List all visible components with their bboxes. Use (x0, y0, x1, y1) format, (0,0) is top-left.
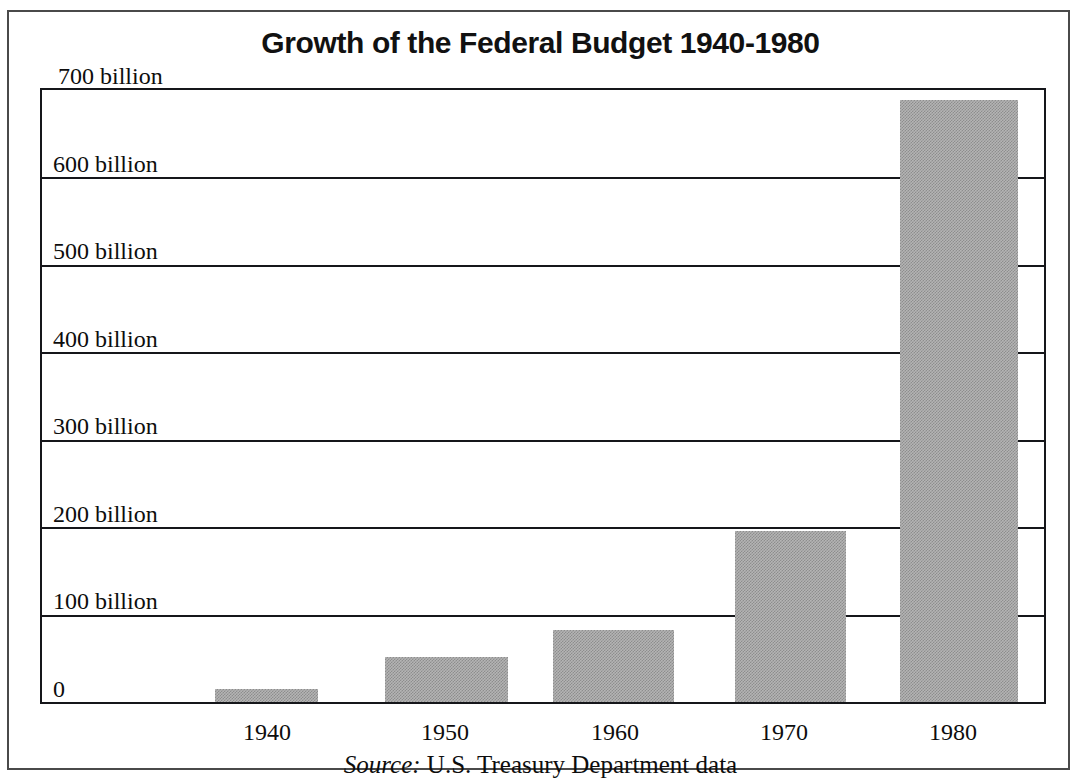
plot-inner: 600 billion 500 billion 400 billion 300 … (42, 90, 1044, 702)
plot-area: 600 billion 500 billion 400 billion 300 … (40, 88, 1046, 704)
gridline-600 (42, 177, 1044, 179)
gridline-500 (42, 265, 1044, 267)
chart-title: Growth of the Federal Budget 1940-1980 (9, 26, 1072, 60)
x-axis-tick-label-1980: 1980 (929, 720, 977, 744)
bar-1940[interactable] (215, 689, 318, 702)
gridline-300 (42, 440, 1044, 442)
y-axis-tick-label-0: 0 (53, 677, 65, 701)
y-axis-tick-label-200: 200 billion (53, 502, 158, 526)
x-axis-tick-label-1950: 1950 (421, 720, 469, 744)
chart-figure: Growth of the Federal Budget 1940-1980 7… (7, 10, 1070, 770)
y-axis-tick-label-700: 700 billion (58, 64, 163, 88)
y-axis-tick-label-500: 500 billion (53, 239, 158, 263)
source-note: Source: U.S. Treasury Department data (9, 752, 1072, 777)
source-label: Source: (344, 751, 421, 778)
bar-1980[interactable] (900, 100, 1018, 702)
bar-1960[interactable] (553, 630, 674, 702)
x-axis-tick-label-1970: 1970 (760, 720, 808, 744)
x-axis-tick-label-1940: 1940 (243, 720, 291, 744)
y-axis-tick-label-300: 300 billion (53, 414, 158, 438)
source-text: U.S. Treasury Department data (427, 751, 737, 778)
gridline-400 (42, 352, 1044, 354)
bar-1950[interactable] (385, 657, 508, 702)
bar-1970[interactable] (735, 531, 846, 702)
y-axis-tick-label-100: 100 billion (53, 589, 158, 613)
gridline-100 (42, 615, 1044, 617)
gridline-200 (42, 527, 1044, 529)
y-axis-tick-label-400: 400 billion (53, 327, 158, 351)
x-axis-tick-label-1960: 1960 (591, 720, 639, 744)
y-axis-tick-label-600: 600 billion (53, 152, 158, 176)
